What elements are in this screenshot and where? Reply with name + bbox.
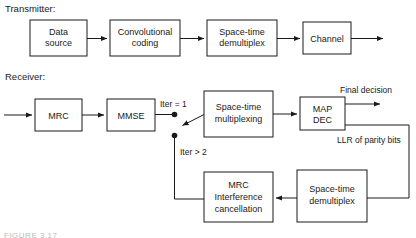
block-map-dec[interactable] — [300, 97, 345, 130]
switch-node-iter-eq-1[interactable] — [172, 112, 178, 118]
block-diagram-figure: Transmitter: Data source Convolutional c… — [0, 0, 416, 238]
block-mrc-interference-cancellation-line1: MRC — [228, 180, 249, 190]
block-map-dec-line1: MAP — [313, 104, 333, 114]
switch-blade[interactable] — [183, 115, 205, 126]
receiver-section-label: Receiver: — [5, 71, 45, 82]
block-convolutional-coding-line2: coding — [132, 38, 159, 48]
wire-feedback-to-mrc-interference-cancellation — [175, 136, 205, 200]
figure-caption: FIGURE 3.17 — [4, 231, 58, 238]
block-space-time-demultiplex-tx-line1: Space-time — [219, 27, 265, 37]
label-final-decision: Final decision — [340, 85, 392, 95]
block-mrc-interference-cancellation-line3: cancellation — [215, 204, 263, 214]
block-space-time-demultiplex-tx-line2: demultiplex — [219, 38, 265, 48]
block-data-source-line1: Data — [49, 27, 68, 37]
block-mrc-interference-cancellation-line2: Interference — [214, 192, 262, 202]
block-data-source-line2: source — [45, 38, 72, 48]
transmitter-section-label: Transmitter: — [5, 3, 55, 14]
block-mmse-line1: MMSE — [118, 111, 145, 121]
diagram-canvas: Transmitter: Data source Convolutional c… — [0, 0, 416, 238]
block-space-time-multiplexing-line2: multiplexing — [215, 114, 263, 124]
label-iter-eq-1: Iter = 1 — [160, 99, 187, 109]
block-channel-line1: Channel — [310, 34, 344, 44]
block-mrc-line1: MRC — [48, 111, 69, 121]
block-space-time-demultiplex-rx-line1: Space-time — [309, 184, 355, 194]
label-iter-gt-2: Iter > 2 — [180, 147, 207, 157]
block-space-time-demultiplex-rx-line2: demultiplex — [309, 196, 355, 206]
label-llr-of-parity-bits: LLR of parity bits — [337, 135, 401, 145]
block-convolutional-coding-line1: Convolutional — [118, 27, 173, 37]
block-map-dec-line2: DEC — [313, 115, 333, 125]
block-space-time-multiplexing-line1: Space-time — [216, 102, 262, 112]
